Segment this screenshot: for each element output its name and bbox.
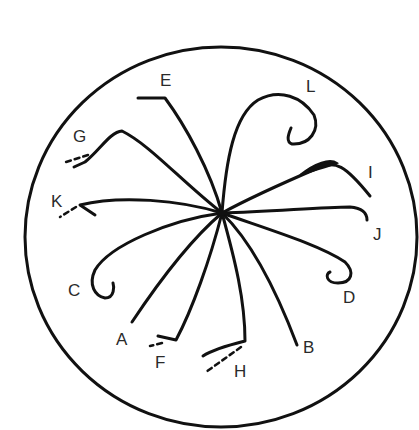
label-e: E <box>160 71 171 90</box>
curve-f <box>158 213 222 340</box>
label-h: H <box>234 362 246 381</box>
curve-k <box>80 200 222 215</box>
label-f: F <box>155 353 165 372</box>
label-i: I <box>368 163 373 182</box>
curve-k-dashed-end <box>60 207 76 217</box>
label-l: L <box>306 77 315 96</box>
curve-h <box>203 213 245 356</box>
diagram-stage: A B C D E F G H I J K L <box>0 0 419 430</box>
curve-f-dashed-end <box>150 343 162 346</box>
radial-curve-diagram: A B C D E F G H I J K L <box>0 0 419 430</box>
curve-b <box>222 213 297 345</box>
curve-d <box>222 213 351 283</box>
curve-i-bulge <box>300 161 337 175</box>
label-k: K <box>51 192 63 211</box>
curve-e <box>138 98 222 213</box>
center-hub <box>219 210 225 216</box>
label-c: C <box>68 281 80 300</box>
label-j: J <box>373 225 382 244</box>
label-a: A <box>116 330 128 349</box>
curve-a <box>132 213 222 322</box>
curve-l <box>222 95 316 213</box>
label-d: D <box>343 288 355 307</box>
curve-j <box>222 207 367 220</box>
outer-circle <box>25 47 417 427</box>
label-g: G <box>73 127 86 146</box>
label-b: B <box>303 338 314 357</box>
